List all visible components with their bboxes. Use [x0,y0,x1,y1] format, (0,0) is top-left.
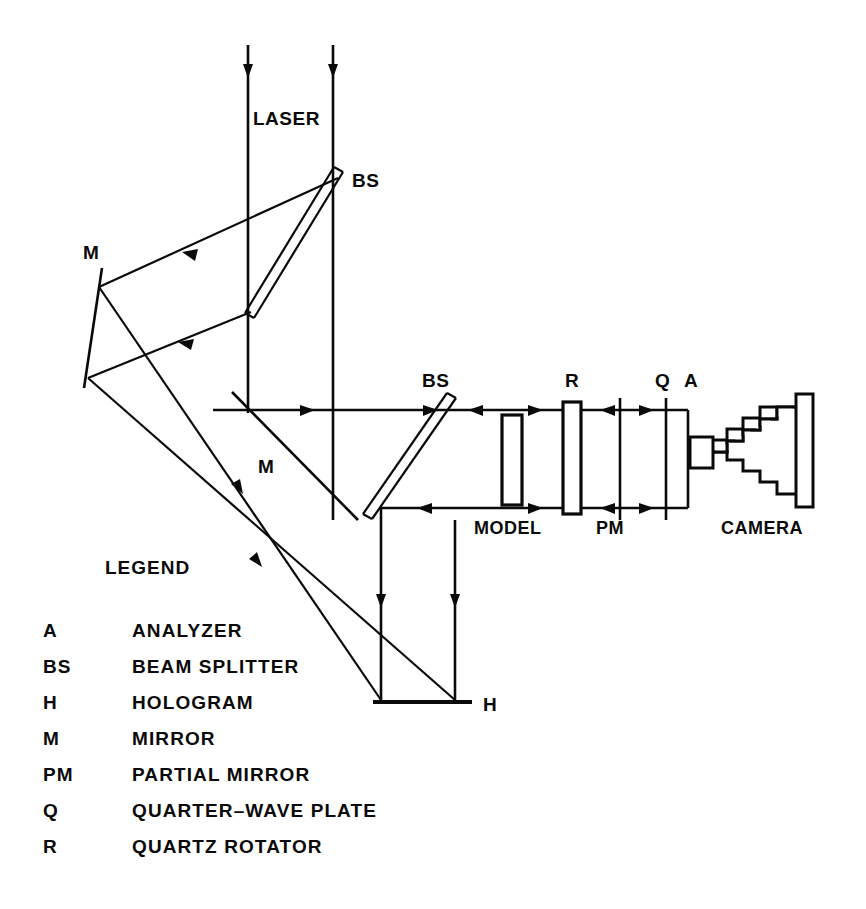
mirror-left [84,268,102,388]
bs-mid-face-a [372,398,456,519]
legend-row: A ANALYZER [43,620,243,641]
arrowhead-vertical-right-down [450,594,460,608]
beam-upper-to-mirror [99,178,338,287]
camera-film-plane [796,394,813,507]
arrowhead-lower-left-2 [600,503,615,514]
bs-mid-edge-bottom [363,514,372,519]
model-component [502,415,522,505]
quartz-rotator-component [563,402,581,514]
arrowhead-diagonal-lower [249,552,262,567]
beam-bs-to-left-mirror-group [88,178,338,378]
arrowhead-upper-right-3 [639,405,654,416]
bs-top-face-a [254,172,343,318]
legend-value-r: QUARTZ ROTATOR [132,836,323,857]
beam-splitter-mid [363,393,456,519]
camera-body [690,394,813,507]
legend-key-h: H [43,692,58,713]
label-bs-top: BS [352,170,379,191]
arrowhead-upper-left-1 [468,405,483,416]
legend-key-q: Q [43,800,59,821]
legend-row: R QUARTZ ROTATOR [43,836,323,857]
beam-lower-to-mirror [88,312,251,378]
label-bs-mid: BS [422,370,449,391]
legend-title: LEGEND [105,557,190,578]
arrowhead-beam-upper-left [182,249,198,261]
label-model: MODEL [474,518,542,538]
arrowhead-upper-right-1 [300,405,315,416]
arrowhead-laser-left [243,64,253,78]
arrowhead-laser-right [328,64,338,78]
legend-key-pm: PM [43,764,74,785]
beam-splitter-top [245,167,343,318]
legend-row: M MIRROR [43,728,216,749]
legend-row: PM PARTIAL MIRROR [43,764,310,785]
camera-bellows-lower [712,452,796,494]
beam-to-hologram-group [376,508,460,702]
label-analyzer: A [684,370,698,391]
legend-key-bs: BS [43,656,71,677]
legend-value-pm: PARTIAL MIRROR [132,764,310,785]
arrowhead-upper-right-2 [528,405,543,416]
legend-row: Q QUARTER–WAVE PLATE [43,800,377,821]
beam-diagonal-lower [88,378,455,700]
label-mirror-left: M [83,242,99,263]
arrowhead-lower-right-2 [639,503,654,514]
legend-value-bs: BEAM SPLITTER [132,656,299,677]
legend-row: H HOLOGRAM [43,692,254,713]
bs-top-face-b [245,167,334,313]
label-mirror-mid: M [258,456,274,477]
legend-value-a: ANALYZER [132,620,243,641]
legend-value-q: QUARTER–WAVE PLATE [132,800,377,821]
camera-lens [690,437,713,468]
bs-top-edge-top [334,167,343,172]
legend-row: BS BEAM SPLITTER [43,656,299,677]
bs-mid-edge-top [447,393,456,398]
arrowhead-vertical-left-down [376,594,386,608]
label-camera: CAMERA [721,518,803,538]
label-partial-mirror: PM [596,518,624,538]
optical-setup-diagram: LASER BS M [0,0,866,909]
label-laser: LASER [253,108,320,129]
arrowhead-lower-left-1 [417,503,432,514]
label-rotator: R [565,370,579,391]
mirror-left-surface [84,268,102,388]
label-quarter-wave: Q [655,370,670,391]
rotator-plate [563,402,581,514]
legend-key-m: M [43,728,60,749]
legend-block: LEGEND A ANALYZER BS BEAM SPLITTER H HOL… [43,557,377,857]
legend-key-a: A [43,620,58,641]
legend-value-m: MIRROR [132,728,216,749]
arrowhead-lower-right-1 [528,503,543,514]
legend-key-r: R [43,836,58,857]
legend-value-h: HOLOGRAM [132,692,254,713]
label-hologram: H [483,694,497,715]
model-plate [502,415,522,505]
arrowhead-upper-left-2 [600,405,615,416]
horizontal-beam-group [213,405,688,514]
figure-canvas: LASER BS M [0,0,866,909]
